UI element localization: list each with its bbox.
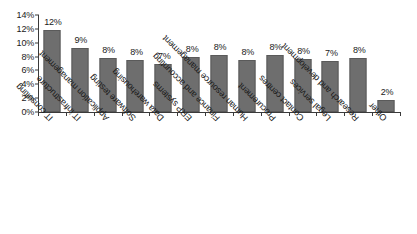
bar-chart: 0%2%4%6%8%10%12%14% 12%9%8%8%7%8%8%8%8%8…	[0, 0, 417, 234]
bar-value-label: 8%	[102, 46, 115, 55]
y-axis-tick-label: 6%	[21, 66, 38, 75]
x-axis-tick-mark	[400, 112, 401, 116]
y-axis-tick-label: 10%	[17, 38, 38, 47]
bar-value-label: 9%	[74, 36, 87, 45]
y-axis-tick-label: 8%	[21, 52, 38, 61]
bar-value-label: 2%	[381, 88, 394, 97]
bar-value-label: 8%	[353, 46, 366, 55]
y-axis-tick-label: 12%	[17, 24, 38, 33]
bar-value-label: 12%	[44, 18, 61, 27]
bar-value-label: 8%	[130, 48, 143, 57]
bar-value-label: 7%	[325, 49, 338, 58]
bar-value-label: 8%	[186, 45, 199, 54]
bar-slot[interactable]: 8%	[344, 15, 372, 112]
y-axis-tick-label: 14%	[17, 11, 38, 20]
x-axis-category-label: Data warehousing	[160, 116, 215, 171]
x-axis-category-labels: IT consultingIT infrastructureApplicatio…	[38, 116, 400, 231]
bar-value-label: 8%	[214, 43, 227, 52]
bar-value-label: 8%	[242, 48, 255, 57]
x-axis-category-label: Other	[383, 116, 405, 138]
bar[interactable]	[350, 58, 367, 112]
bar-slot[interactable]: 2%	[372, 15, 400, 112]
